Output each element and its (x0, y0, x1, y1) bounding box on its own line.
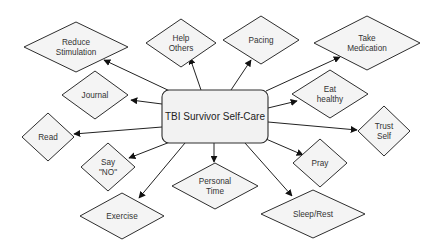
node-read[interactable]: Read (22, 113, 74, 161)
center-label: TBI Survivor Self-Care (165, 111, 265, 122)
node-label: Help (173, 34, 190, 43)
self-care-mind-map: ReduceStimulationHelpOthersPacingTakeMed… (0, 0, 441, 252)
node-label: Exercise (106, 212, 138, 221)
diamond-shape (358, 106, 410, 156)
arrow-to-say-no (129, 142, 170, 158)
node-exercise[interactable]: Exercise (80, 193, 164, 239)
node-label: Self (377, 132, 392, 141)
node-label: Say (101, 158, 116, 167)
node-label: Personal (199, 177, 231, 186)
node-label: Trust (375, 122, 394, 131)
node-label: Pacing (248, 36, 273, 45)
diamond-shape (146, 19, 216, 67)
node-journal[interactable]: Journal (62, 71, 128, 119)
node-label: Take (358, 34, 376, 43)
node-trust-self[interactable]: TrustSelf (358, 106, 410, 156)
node-label: Pray (312, 159, 330, 168)
node-label: "NO" (99, 168, 117, 177)
node-eat-healthy[interactable]: Eathealthy (292, 70, 368, 118)
node-say-no[interactable]: Say"NO" (81, 143, 135, 191)
node-label: Medication (347, 44, 387, 53)
diamond-shape (172, 163, 258, 209)
arrow-to-trust-self (268, 122, 357, 130)
arrow-to-help-others (190, 58, 201, 90)
diamond-shape (292, 70, 368, 118)
node-label: Time (206, 187, 224, 196)
node-pacing[interactable]: Pacing (223, 16, 299, 64)
node-help-others[interactable]: HelpOthers (146, 19, 216, 67)
center-node[interactable]: TBI Survivor Self-Care (162, 90, 268, 143)
arrow-to-eat-healthy (268, 101, 297, 108)
arrow-to-journal (131, 100, 162, 104)
arrow-to-pacing (231, 60, 251, 90)
node-label: Reduce (62, 38, 91, 47)
node-label: Read (38, 133, 58, 142)
node-label: healthy (317, 95, 344, 104)
node-label: Journal (82, 91, 109, 100)
arrow-to-pray (266, 139, 303, 155)
node-pray[interactable]: Pray (293, 139, 347, 187)
diamond-shape (81, 143, 135, 191)
arrow-to-read (74, 127, 162, 134)
node-label: Stimulation (56, 48, 97, 57)
node-personal-time[interactable]: PersonalTime (172, 163, 258, 209)
node-label: Others (169, 44, 194, 53)
node-label: Eat (324, 85, 337, 94)
node-sleep-rest[interactable]: Sleep/Rest (261, 190, 365, 238)
node-label: Sleep/Rest (293, 210, 334, 219)
